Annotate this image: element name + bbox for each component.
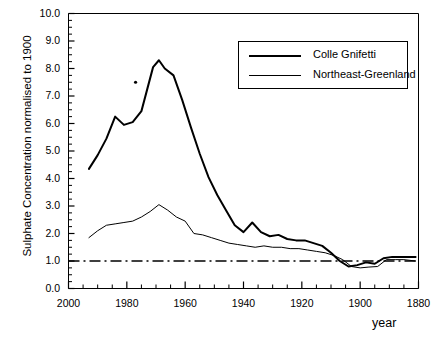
y-tick-label: 5.0 — [20, 144, 60, 156]
chart-legend: Colle Gnifetti Northeast-Greenland — [238, 41, 408, 89]
y-tick-label: 9.0 — [20, 34, 60, 46]
legend-label-colle-gnifetti: Colle Gnifetti — [313, 48, 376, 60]
y-tick-label: 10.0 — [20, 7, 60, 19]
legend-entry-colle-gnifetti: Colle Gnifetti — [239, 46, 409, 66]
x-tick-label: 1940 — [214, 297, 274, 309]
x-tick-label: 1880 — [389, 297, 444, 309]
y-tick-label: 4.0 — [20, 172, 60, 184]
y-tick-label: 1.0 — [20, 254, 60, 266]
x-tick-label: 1980 — [97, 297, 157, 309]
legend-line-swatch-northeast-greenland — [249, 75, 301, 76]
series-line-colle-gnifetti — [89, 60, 416, 266]
legend-label-northeast-greenland: Northeast-Greenland — [313, 68, 416, 80]
series-line-northeast-greenland — [89, 205, 416, 268]
y-tick-label: 3.0 — [20, 199, 60, 211]
y-tick-label: 2.0 — [20, 227, 60, 239]
chart-figure: Sulphate Concentration normalised to 190… — [0, 0, 444, 343]
x-tick-label: 2000 — [39, 297, 99, 309]
y-tick-label: 6.0 — [20, 117, 60, 129]
legend-line-swatch-colle-gnifetti — [249, 55, 301, 57]
annotation-isolated-point — [134, 81, 137, 84]
y-tick-label: 8.0 — [20, 62, 60, 74]
legend-entry-northeast-greenland: Northeast-Greenland — [239, 66, 409, 86]
x-tick-label: 1960 — [155, 297, 215, 309]
x-tick-label: 1900 — [330, 297, 390, 309]
y-tick-label: 7.0 — [20, 89, 60, 101]
y-tick-label: 0.0 — [20, 282, 60, 294]
x-tick-label: 1920 — [272, 297, 332, 309]
